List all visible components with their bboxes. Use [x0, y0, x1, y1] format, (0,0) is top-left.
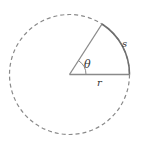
r-label: r: [97, 77, 103, 88]
arc-s: [102, 24, 130, 75]
s-label: s: [122, 38, 127, 49]
theta-label: θ: [84, 58, 91, 71]
arc-length-diagram: θ s r: [0, 0, 142, 143]
